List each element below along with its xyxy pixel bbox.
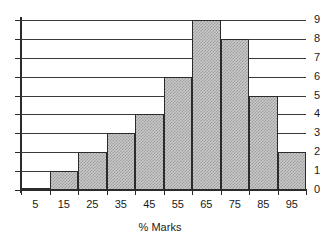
bar <box>50 171 79 190</box>
x-axis-tick-label: 75 <box>221 198 250 210</box>
y-axis-tick-label: 5 <box>306 90 320 101</box>
bar <box>164 77 193 190</box>
x-axis-tick-label: 65 <box>192 198 221 210</box>
x-axis-tick <box>50 189 51 195</box>
x-axis-tick-label: 15 <box>50 198 79 210</box>
gridline <box>21 20 306 21</box>
plot-area <box>21 20 306 190</box>
bar <box>107 133 136 190</box>
x-axis-tick <box>192 189 193 195</box>
x-axis-tick <box>306 189 307 195</box>
bar <box>78 152 107 190</box>
y-axis-tick-label: 2 <box>306 146 320 157</box>
x-axis-tick-label: 55 <box>164 198 193 210</box>
bar <box>249 96 278 190</box>
y-axis-tick-label: 9 <box>306 14 320 25</box>
y-axis-tick-label: 3 <box>306 127 320 138</box>
x-axis-tick <box>107 189 108 195</box>
x-axis-tick-label: 35 <box>107 198 136 210</box>
x-axis-tick <box>135 189 136 195</box>
y-axis-tick-label: 0 <box>306 184 320 195</box>
x-axis-tick <box>249 189 250 195</box>
y-axis-tick-label: 4 <box>306 108 320 119</box>
x-axis-tick-label: 5 <box>21 198 50 210</box>
y-axis-tick-label: 1 <box>306 165 320 176</box>
gridline <box>21 58 306 59</box>
bar <box>135 114 164 190</box>
x-axis-tick-label: 85 <box>249 198 278 210</box>
x-axis-tick <box>164 189 165 195</box>
y-axis-tick-label: 7 <box>306 52 320 63</box>
bar <box>192 20 221 190</box>
x-axis-tick-label: 45 <box>135 198 164 210</box>
bar <box>221 39 250 190</box>
x-axis-tick <box>78 189 79 195</box>
histogram-chart: 0123456789 5152535455565758595 % Marks <box>0 0 320 241</box>
x-axis-title: % Marks <box>0 221 320 234</box>
bar <box>278 152 307 190</box>
x-axis-tick <box>278 189 279 195</box>
x-axis-tick <box>21 189 22 195</box>
x-axis-tick <box>221 189 222 195</box>
gridline <box>21 39 306 40</box>
x-axis-tick-label: 95 <box>278 198 307 210</box>
y-axis-tick-label: 8 <box>306 33 320 44</box>
y-axis-tick-label: 6 <box>306 71 320 82</box>
x-axis-tick-label: 25 <box>78 198 107 210</box>
